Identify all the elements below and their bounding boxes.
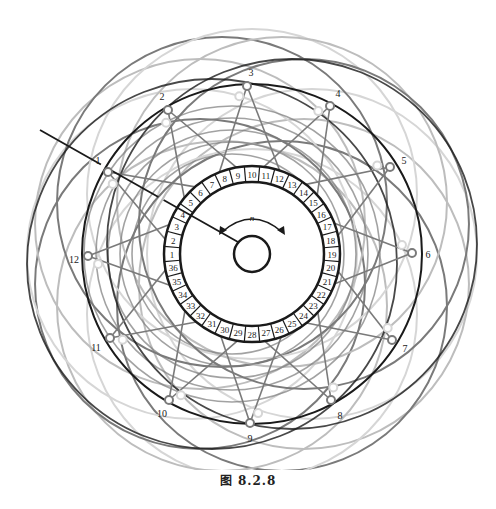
terminal-secondary — [162, 119, 170, 127]
commutator-segment-label: 31 — [208, 319, 217, 329]
commutator-segment-label: 8 — [222, 174, 227, 184]
commutator-segment-label: 18 — [326, 236, 336, 246]
terminal-secondary — [94, 260, 102, 268]
terminal-label: 9 — [248, 433, 253, 444]
commutator-segment-label: 11 — [262, 171, 271, 181]
connector-lead — [88, 225, 169, 256]
terminal-secondary — [314, 107, 322, 115]
terminal — [164, 106, 172, 114]
terminal-label: 12 — [69, 254, 79, 265]
commutator-segment-label: 1 — [170, 250, 175, 260]
commutator-segment-label: 29 — [234, 328, 244, 338]
terminal-secondary — [109, 180, 117, 188]
commutator-segment-label: 36 — [169, 263, 179, 273]
terminal — [243, 82, 251, 90]
terminal-secondary — [254, 409, 262, 417]
commutator-segment-label: 14 — [299, 188, 309, 198]
commutator-segment-label: 3 — [175, 222, 180, 232]
terminal-secondary — [384, 324, 392, 332]
commutator-segment-label: 17 — [323, 222, 333, 232]
figure-caption: 图 8.2.8 — [0, 471, 496, 488]
terminal — [104, 168, 112, 176]
commutator-segment-label: 25 — [288, 319, 298, 329]
shaft — [234, 236, 270, 272]
connector-lead — [221, 336, 250, 423]
terminal-label: 5 — [402, 155, 407, 166]
commutator-segment-label: 20 — [326, 263, 336, 273]
commutator-segment-label: 22 — [317, 290, 326, 300]
commutator-segment-label: 27 — [261, 328, 271, 338]
terminal — [327, 396, 335, 404]
terminal — [106, 334, 114, 342]
terminal-label: 1 — [96, 155, 101, 166]
commutator-segment-label: 7 — [210, 180, 215, 190]
commutator-segment-label: 15 — [309, 198, 319, 208]
commutator-segment-label: 21 — [323, 277, 332, 287]
commutator-segment-label: 6 — [198, 188, 203, 198]
terminal — [386, 163, 394, 171]
commutator-segment-label: 13 — [288, 180, 298, 190]
terminal — [326, 102, 334, 110]
commutator-segment-label: 33 — [186, 301, 196, 311]
commutator-segment-label: 2 — [171, 236, 176, 246]
terminal-label: 11 — [91, 342, 101, 353]
rotation-label: n — [250, 213, 255, 223]
terminal-secondary — [329, 383, 337, 391]
commutator-segment-label: 12 — [275, 174, 284, 184]
terminal-secondary — [398, 241, 406, 249]
terminal-label: 4 — [336, 88, 341, 99]
commutator-segment-label: 34 — [178, 290, 188, 300]
terminal-label: 2 — [160, 91, 165, 102]
terminal-label: 10 — [157, 408, 167, 419]
commutator-segment-label: 35 — [172, 277, 182, 287]
commutator-segment-label: 28 — [248, 330, 258, 340]
commutator-segment-label: 16 — [317, 210, 327, 220]
commutator-segment-label: 26 — [275, 325, 285, 335]
commutator-segment-label: 5 — [188, 198, 193, 208]
terminal-secondary — [177, 391, 185, 399]
terminal — [388, 336, 396, 344]
terminal — [84, 252, 92, 260]
terminal-secondary — [235, 92, 243, 100]
terminal — [165, 396, 173, 404]
terminal-label: 3 — [249, 67, 254, 78]
terminal-label: 8 — [338, 410, 343, 421]
terminal-secondary — [119, 336, 127, 344]
commutator-segment-label: 19 — [328, 250, 338, 260]
commutator-segment-label: 10 — [248, 170, 258, 180]
commutator-segment-label: 9 — [236, 171, 241, 181]
armature-winding-diagram: 1234567891011121314151617181920212223242… — [0, 0, 496, 470]
commutator-segment-label: 23 — [309, 301, 319, 311]
terminal-label: 7 — [403, 343, 408, 354]
commutator-segment-label: 24 — [299, 311, 309, 321]
terminal — [246, 419, 254, 427]
terminal-label: 6 — [426, 249, 431, 260]
commutator-segment-label: 32 — [196, 311, 205, 321]
terminal-secondary — [373, 162, 381, 170]
commutator-segment-label: 30 — [220, 325, 230, 335]
terminal — [408, 249, 416, 257]
